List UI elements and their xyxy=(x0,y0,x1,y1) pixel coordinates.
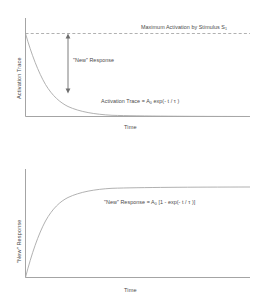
new-response-arrow-label: "New" Response xyxy=(73,57,114,63)
maximum-activation-label-text: Maximum Activation by Stimulus S xyxy=(141,24,225,30)
figure-container: Maximum Activation by Stimulus S1 "New" … xyxy=(0,0,264,306)
new-response-equation-label: "New" Response = A0 [1 - exp(- t / τ )] xyxy=(104,199,195,205)
new-response-arrow-head-top xyxy=(66,34,71,39)
activation-trace-equation-subscript: 0 xyxy=(150,101,152,105)
top-y-axis-title: Activation Trace xyxy=(16,57,22,99)
new-response-equation-suffix: [1 - exp(- t / τ )] xyxy=(157,199,195,205)
activation-trace-equation-prefix: Activation Trace = A xyxy=(101,98,150,104)
activation-trace-equation-label: Activation Trace = A0 exp(- t / τ ) xyxy=(101,98,179,104)
new-response-arrow-head-bottom xyxy=(66,89,71,94)
chart-panel-top: Maximum Activation by Stimulus S1 "New" … xyxy=(0,0,264,150)
bottom-x-axis-title: Time xyxy=(124,287,137,293)
maximum-activation-label-subscript: 1 xyxy=(225,27,227,31)
top-x-axis-title: Time xyxy=(124,124,137,130)
new-response-equation-prefix: "New" Response = A xyxy=(104,199,155,205)
chart-panel-bottom: "New" Response = A0 [1 - exp(- t / τ )] … xyxy=(0,155,264,306)
activation-trace-equation-suffix: exp(- t / τ ) xyxy=(152,98,179,104)
maximum-activation-label: Maximum Activation by Stimulus S1 xyxy=(141,24,227,30)
new-response-equation-subscript: 0 xyxy=(155,202,157,206)
bottom-chart-svg xyxy=(0,155,264,306)
bottom-y-axis-title: "New" Response xyxy=(16,219,22,263)
